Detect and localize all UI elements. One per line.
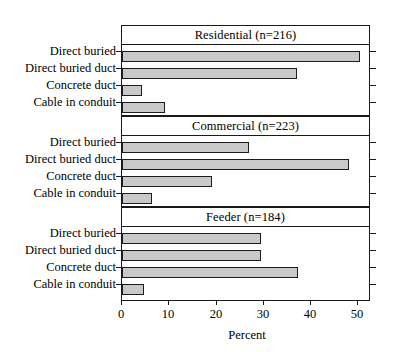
- ytick-mark-right: [370, 159, 376, 160]
- ylabel-feeder-direct-buried: Direct buried: [50, 227, 116, 240]
- x-tick-label-50: 50: [337, 308, 377, 321]
- x-tick-40: [310, 300, 311, 305]
- ytick-mark: [116, 250, 121, 251]
- bar-feeder-concrete-duct: [122, 267, 298, 278]
- ytick-mark: [116, 233, 121, 234]
- panel-feeder: Feeder (n=184): [121, 207, 370, 301]
- x-tick-label-30: 30: [243, 308, 283, 321]
- ytick-mark-right: [370, 267, 376, 268]
- x-tick-50: [357, 300, 358, 305]
- ytick-mark-right: [370, 193, 376, 194]
- x-axis-label-container: Percent: [0, 329, 393, 342]
- ytick-mark: [116, 142, 121, 143]
- panel-residential: Residential (n=216): [121, 25, 370, 116]
- x-tick-label-40: 40: [290, 308, 330, 321]
- ytick-mark-right: [370, 51, 376, 52]
- ylabel-feeder-concrete-duct: Concrete duct: [46, 261, 116, 274]
- plot-area-commercial: [122, 136, 369, 207]
- plot-area-feeder: [122, 227, 369, 301]
- bar-commercial-direct-buried: [122, 142, 249, 153]
- panel-title-residential: Residential (n=216): [195, 29, 297, 42]
- ytick-mark: [116, 159, 121, 160]
- x-tick-label-10: 10: [148, 308, 188, 321]
- ylabel-feeder-cable-in-conduit: Cable in conduit: [33, 278, 116, 291]
- ytick-mark-right: [370, 176, 376, 177]
- bar-commercial-direct-buried-duct: [122, 159, 349, 170]
- ytick-mark: [116, 193, 121, 194]
- x-tick-30: [263, 300, 264, 305]
- ylabel-commercial-direct-buried-duct: Direct buried duct: [25, 153, 116, 166]
- ylabel-feeder-direct-buried-duct: Direct buried duct: [25, 244, 116, 257]
- panel-title-strip-commercial: Commercial (n=223): [122, 117, 369, 136]
- bar-feeder-cable-in-conduit: [122, 284, 144, 295]
- ylabel-residential-direct-buried-duct: Direct buried duct: [25, 62, 116, 75]
- panel-title-strip-residential: Residential (n=216): [122, 26, 369, 45]
- ylabel-residential-direct-buried: Direct buried: [50, 45, 116, 58]
- panel-title-feeder: Feeder (n=184): [206, 211, 285, 224]
- x-tick-label-20: 20: [196, 308, 236, 321]
- ylabel-residential-cable-in-conduit: Cable in conduit: [33, 96, 116, 109]
- x-tick-20: [216, 300, 217, 305]
- x-axis-line: [121, 300, 370, 301]
- bar-feeder-direct-buried-duct: [122, 250, 261, 261]
- ytick-mark-right: [370, 284, 376, 285]
- ylabel-commercial-cable-in-conduit: Cable in conduit: [33, 187, 116, 200]
- ytick-mark: [116, 102, 121, 103]
- x-tick-label-0: 0: [101, 308, 141, 321]
- bar-residential-concrete-duct: [122, 85, 142, 96]
- bar-residential-direct-buried-duct: [122, 68, 297, 79]
- ytick-mark-right: [370, 250, 376, 251]
- ytick-mark-right: [370, 102, 376, 103]
- ytick-mark: [116, 51, 121, 52]
- ylabel-commercial-direct-buried: Direct buried: [50, 136, 116, 149]
- ylabel-residential-concrete-duct: Concrete duct: [46, 79, 116, 92]
- ytick-mark: [116, 68, 121, 69]
- ytick-mark: [116, 176, 121, 177]
- ytick-mark-right: [370, 233, 376, 234]
- ytick-mark: [116, 284, 121, 285]
- ytick-mark-right: [370, 68, 376, 69]
- bar-residential-cable-in-conduit: [122, 102, 165, 113]
- bar-feeder-direct-buried: [122, 233, 261, 244]
- panel-title-strip-feeder: Feeder (n=184): [122, 208, 369, 227]
- plot-area-residential: [122, 45, 369, 116]
- bar-commercial-cable-in-conduit: [122, 193, 152, 204]
- ytick-mark-right: [370, 85, 376, 86]
- ytick-mark: [116, 85, 121, 86]
- bar-commercial-concrete-duct: [122, 176, 212, 187]
- bar-residential-direct-buried: [122, 51, 360, 62]
- x-axis-label: Percent: [228, 329, 265, 342]
- ylabel-commercial-concrete-duct: Concrete duct: [46, 170, 116, 183]
- ytick-mark: [116, 267, 121, 268]
- x-tick-0: [121, 300, 122, 305]
- x-tick-10: [168, 300, 169, 305]
- ytick-mark-right: [370, 142, 376, 143]
- bar-chart-figure: Residential (n=216) Direct buried Direct…: [0, 0, 393, 352]
- panel-title-commercial: Commercial (n=223): [192, 120, 299, 133]
- panel-commercial: Commercial (n=223): [121, 116, 370, 207]
